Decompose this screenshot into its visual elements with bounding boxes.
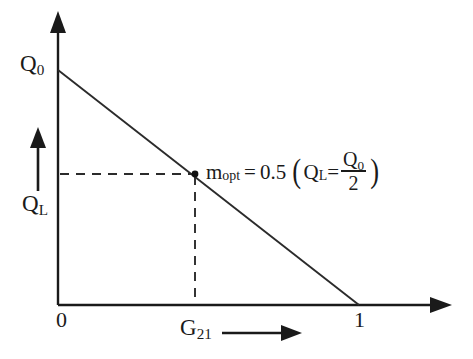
annotation-paren-close: ) — [370, 157, 379, 186]
y-axis-title: QL — [22, 192, 48, 215]
origin-label: 0 — [56, 309, 67, 331]
y-axis-arrowhead — [50, 11, 66, 33]
x-axis-title-base: G — [180, 315, 197, 340]
x-axis-arrowhead — [430, 297, 452, 313]
y-axis-max-label: Q0 — [20, 52, 44, 75]
x-axis-tick-label-one: 1 — [354, 309, 365, 331]
y-axis-max-label-subscript: 0 — [37, 61, 45, 78]
annotation-fraction-numerator-base: Q — [343, 148, 357, 170]
annotation-paren-open: ( — [292, 157, 301, 186]
x-axis-title-subscript: 21 — [197, 325, 212, 342]
ql-direction-arrowhead — [30, 127, 46, 148]
y-axis-title-subscript: L — [39, 201, 48, 218]
annotation-inner-variable-subscript: L — [319, 169, 327, 183]
optimum-point-marker — [192, 171, 199, 178]
optimum-annotation: mopt = 0.5 ( QL = Q0 2 ) — [206, 150, 381, 195]
y-axis-title-base: Q — [22, 191, 39, 216]
annotation-fraction-numerator-subscript: 0 — [357, 158, 364, 173]
x-axis-title: G21 — [180, 316, 212, 339]
annotation-inner-equals: = — [327, 162, 339, 183]
annotation-inner-variable: Q — [303, 162, 318, 183]
annotation-fraction-denominator: 2 — [346, 172, 360, 194]
g21-direction-arrowhead — [281, 325, 302, 341]
y-axis-max-label-base: Q — [20, 51, 37, 76]
annotation-variable-subscript: opt — [222, 169, 240, 183]
annotation-fraction: Q0 2 — [341, 149, 366, 194]
annotation-fraction-numerator: Q0 — [341, 149, 366, 170]
annotation-variable: m — [206, 162, 222, 183]
figure-canvas: Q0 QL 0 1 G21 mopt = 0.5 ( QL = Q0 2 ) — [0, 0, 473, 359]
annotation-value: 0.5 — [260, 162, 286, 183]
annotation-equals: = — [244, 162, 256, 183]
